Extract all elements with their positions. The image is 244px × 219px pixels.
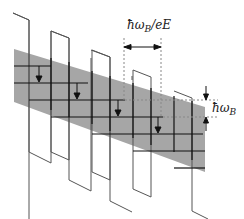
period-arrow <box>124 45 161 50</box>
wannier-stark-diagram: ħωB/eE ħωB <box>0 0 244 219</box>
period-label: ħωB/eE <box>127 18 171 34</box>
energy-spacing-label: ħωB <box>212 101 237 117</box>
